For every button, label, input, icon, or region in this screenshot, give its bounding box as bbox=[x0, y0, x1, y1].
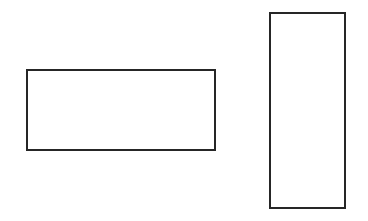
portrait-rectangle bbox=[270, 13, 345, 208]
shape-layer bbox=[0, 0, 368, 221]
landscape-rectangle bbox=[27, 70, 215, 150]
figure-canvas bbox=[0, 0, 368, 221]
